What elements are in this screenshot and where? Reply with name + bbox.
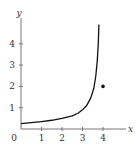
curve-line [21, 25, 99, 124]
y-tick-label: 3 [9, 60, 15, 70]
chart: xy012341234 [0, 0, 136, 148]
x-tick-label: 2 [59, 133, 65, 143]
x-tick-label: 3 [80, 133, 86, 143]
x-tick-label: 1 [39, 133, 45, 143]
x-axis-label: x [128, 124, 133, 134]
data-point [101, 85, 105, 89]
y-tick-label: 1 [9, 103, 15, 113]
y-tick-label: 2 [9, 81, 15, 91]
y-tick-label: 4 [9, 39, 15, 49]
origin-label: 0 [11, 133, 17, 143]
y-axis-label: y [15, 8, 22, 18]
x-tick-label: 4 [100, 133, 106, 143]
